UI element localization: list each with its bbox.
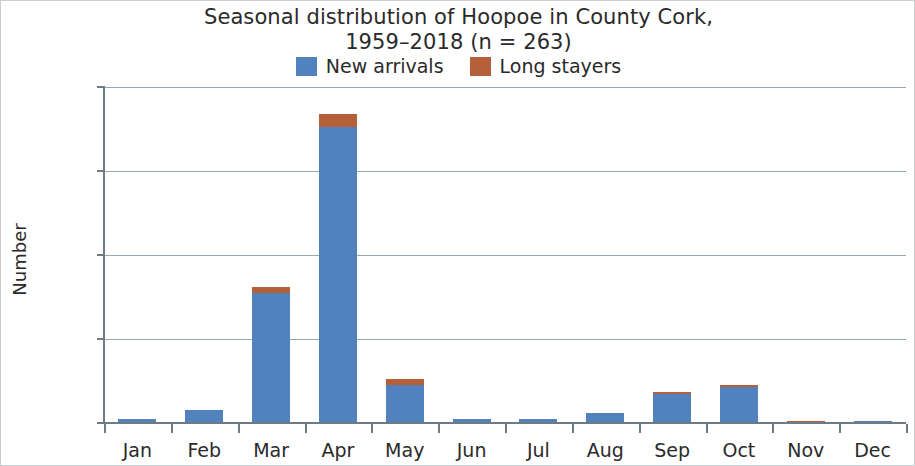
- plot-area: 04080120160 JanFebMarAprMayJunJulAugSepO…: [104, 87, 906, 423]
- legend-label-new-arrivals: New arrivals: [326, 55, 444, 77]
- x-tick-mark: [371, 424, 373, 433]
- bar-stack: [252, 287, 290, 423]
- x-tick-mark: [438, 424, 440, 433]
- x-tick-label-dec: Dec: [833, 439, 913, 461]
- bar-segment-new-arrivals: [720, 387, 758, 423]
- x-tick-mark: [572, 424, 574, 433]
- bar-group-nov: [772, 87, 839, 423]
- bar-group-may: [371, 87, 438, 423]
- x-tick-mark: [839, 424, 841, 433]
- x-tick-mark: [505, 424, 507, 433]
- bar-group-dec: [839, 87, 906, 423]
- x-tick-mark: [171, 424, 173, 433]
- bar-stack: [386, 379, 424, 423]
- chart-title-line-1: Seasonal distribution of Hoopoe in Count…: [1, 5, 915, 30]
- x-tick-mark: [906, 424, 908, 433]
- bar-group-sep: [639, 87, 706, 423]
- bar-group-jul: [505, 87, 572, 423]
- bar-segment-new-arrivals: [319, 127, 357, 423]
- legend-swatch-long-stayers: [470, 57, 491, 76]
- x-axis-line: [104, 422, 906, 424]
- bar-group-jan: [104, 87, 171, 423]
- legend-swatch-new-arrivals: [296, 57, 317, 76]
- y-axis-line: [103, 87, 105, 424]
- bar-segment-new-arrivals: [386, 385, 424, 423]
- x-tick-mark: [772, 424, 774, 433]
- bar-stack: [653, 392, 691, 423]
- bar-group-mar: [238, 87, 305, 423]
- x-tick-mark: [238, 424, 240, 433]
- chart-legend: New arrivals Long stayers: [1, 55, 915, 77]
- chart-title: Seasonal distribution of Hoopoe in Count…: [1, 5, 915, 55]
- chart-title-line-2: 1959–2018 (n = 263): [1, 30, 915, 55]
- x-tick-mark: [706, 424, 708, 433]
- bar-group-aug: [572, 87, 639, 423]
- bar-group-feb: [171, 87, 238, 423]
- bar-segment-new-arrivals: [653, 394, 691, 423]
- x-tick-mark: [639, 424, 641, 433]
- bar-group-apr: [305, 87, 372, 423]
- legend-item-long-stayers: Long stayers: [470, 55, 622, 77]
- bar-segment-new-arrivals: [252, 293, 290, 423]
- bar-stack: [319, 114, 357, 423]
- y-axis-title-text: Number: [9, 223, 30, 295]
- bar-group-oct: [706, 87, 773, 423]
- bar-stack: [720, 385, 758, 423]
- chart-container: Seasonal distribution of Hoopoe in Count…: [0, 0, 915, 466]
- y-axis-title: Number: [5, 199, 33, 319]
- bar-group-jun: [438, 87, 505, 423]
- x-tick-mark: [104, 424, 106, 433]
- bar-segment-long-stayers: [319, 114, 357, 127]
- legend-label-long-stayers: Long stayers: [500, 55, 622, 77]
- legend-item-new-arrivals: New arrivals: [296, 55, 444, 77]
- x-tick-mark: [305, 424, 307, 433]
